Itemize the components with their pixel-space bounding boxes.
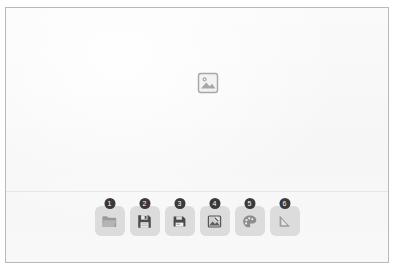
- badge-4: 4: [209, 198, 220, 209]
- set-square-icon: [276, 213, 293, 230]
- toolbar-button-set-square[interactable]: 6: [270, 206, 300, 236]
- toolbar-divider: [6, 191, 388, 192]
- toolbar-button-palette[interactable]: 5: [235, 206, 265, 236]
- broken-image-icon: [197, 72, 219, 94]
- toolbar: 1 2: [6, 198, 388, 248]
- badge-5: 5: [244, 198, 255, 209]
- folder-icon: [101, 213, 118, 230]
- save-icon: [136, 213, 153, 230]
- toolbar-button-save-as[interactable]: 3: [165, 206, 195, 236]
- app-frame: 1 2: [5, 7, 389, 263]
- palette-icon: [241, 213, 258, 230]
- badge-2: 2: [139, 198, 150, 209]
- badge-1: 1: [104, 198, 115, 209]
- image-edit-icon: [206, 213, 223, 230]
- badge-3: 3: [174, 198, 185, 209]
- toolbar-button-folder[interactable]: 1: [95, 206, 125, 236]
- toolbar-button-save[interactable]: 2: [130, 206, 160, 236]
- badge-6: 6: [279, 198, 290, 209]
- save-as-icon: [171, 213, 188, 230]
- canvas-region[interactable]: [6, 8, 388, 191]
- toolbar-button-image-edit[interactable]: 4: [200, 206, 230, 236]
